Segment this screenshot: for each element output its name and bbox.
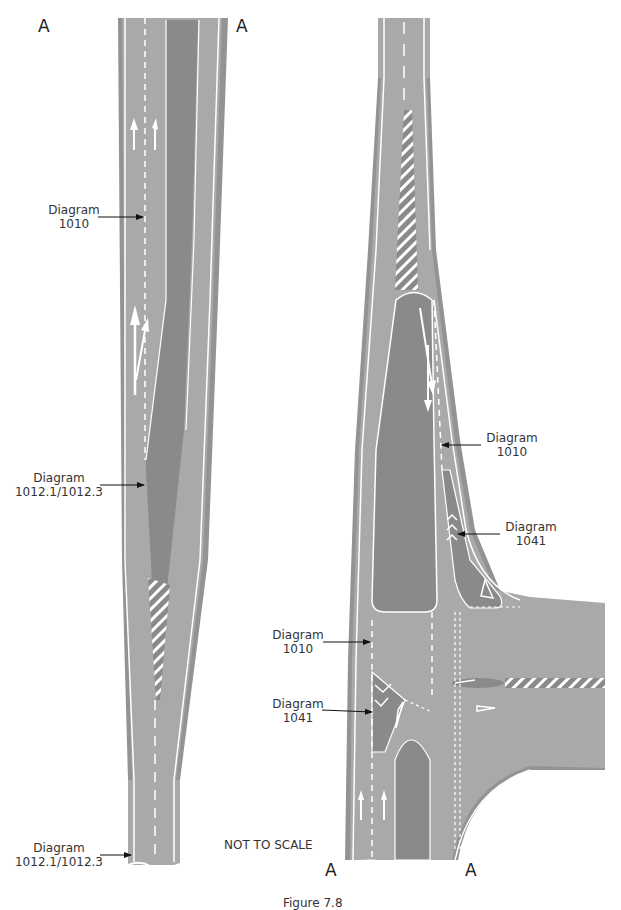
right-t-junction [345, 18, 605, 867]
match-label-a: A [325, 860, 337, 880]
callout-diagram-1010: Diagram 1010 [482, 431, 542, 459]
left-dual-carriageway-taper [118, 18, 228, 869]
callout-line1: Diagram [482, 431, 542, 445]
figure-caption: Figure 7.8 [283, 896, 343, 910]
callout-line2: 1041 [268, 711, 328, 725]
callout-line1: Diagram [501, 520, 561, 534]
callout-line1: Diagram [44, 203, 104, 217]
callout-line2: 1012.1/1012.3 [14, 485, 104, 499]
callout-line2: 1010 [268, 642, 328, 656]
callout-diagram-1041: Diagram 1041 [501, 520, 561, 548]
callout-line2: 1041 [501, 534, 561, 548]
callout-line1: Diagram [14, 841, 104, 855]
callout-diagram-1041: Diagram 1041 [268, 697, 328, 725]
match-label-a: A [38, 16, 50, 36]
not-to-scale-note: NOT TO SCALE [224, 838, 313, 852]
callout-diagram-1012: Diagram 1012.1/1012.3 [14, 841, 104, 869]
callout-diagram-1010: Diagram 1010 [268, 628, 328, 656]
callout-line2: 1010 [482, 445, 542, 459]
match-label-a: A [465, 860, 477, 880]
callout-diagram-1010: Diagram 1010 [44, 203, 104, 231]
callout-line1: Diagram [268, 628, 328, 642]
callout-line1: Diagram [14, 471, 104, 485]
callout-diagram-1012: Diagram 1012.1/1012.3 [14, 471, 104, 499]
match-label-a: A [236, 16, 248, 36]
callout-line2: 1012.1/1012.3 [14, 855, 104, 869]
callout-line1: Diagram [268, 697, 328, 711]
callout-line2: 1010 [44, 217, 104, 231]
